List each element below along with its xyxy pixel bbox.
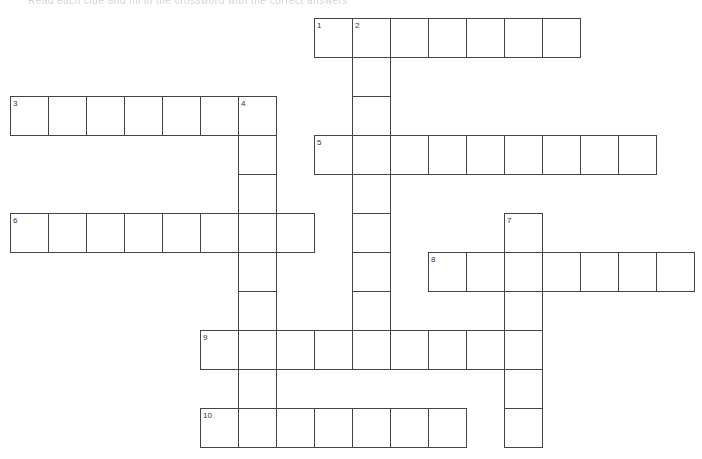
crossword-cell[interactable]: [428, 135, 467, 175]
crossword-cell[interactable]: [428, 408, 467, 448]
crossword-cell[interactable]: [86, 96, 125, 136]
crossword-cell[interactable]: [276, 408, 315, 448]
clue-number: 8: [431, 255, 435, 264]
crossword-cell[interactable]: 1: [314, 18, 353, 58]
crossword-cell[interactable]: [504, 330, 543, 370]
crossword-cell[interactable]: [390, 330, 429, 370]
crossword-cell[interactable]: [580, 252, 619, 292]
crossword-cell[interactable]: [124, 213, 163, 253]
crossword-cell[interactable]: [352, 213, 391, 253]
crossword-cell[interactable]: 4: [238, 96, 277, 136]
crossword-cell[interactable]: [238, 330, 277, 370]
crossword-cell[interactable]: [580, 135, 619, 175]
crossword-cell[interactable]: [352, 291, 391, 331]
crossword-cell[interactable]: [466, 252, 505, 292]
clue-number: 1: [317, 21, 321, 30]
crossword-cell[interactable]: [200, 96, 239, 136]
crossword-cell[interactable]: [276, 213, 315, 253]
clue-number: 7: [507, 216, 511, 225]
crossword-cell[interactable]: [276, 330, 315, 370]
crossword-cell[interactable]: [504, 291, 543, 331]
clue-number: 4: [241, 99, 245, 108]
crossword-cell[interactable]: [238, 408, 277, 448]
crossword-cell[interactable]: [428, 330, 467, 370]
crossword-cell[interactable]: [618, 135, 657, 175]
crossword-cell[interactable]: [162, 213, 201, 253]
crossword-cell[interactable]: [542, 18, 581, 58]
crossword-cell[interactable]: 5: [314, 135, 353, 175]
clue-number: 2: [355, 21, 359, 30]
crossword-cell[interactable]: 6: [10, 213, 49, 253]
crossword-cell[interactable]: [504, 369, 543, 409]
crossword-cell[interactable]: [466, 18, 505, 58]
crossword-cell[interactable]: [466, 330, 505, 370]
crossword-cell[interactable]: [238, 252, 277, 292]
crossword-cell[interactable]: [124, 96, 163, 136]
crossword-cell[interactable]: [48, 213, 87, 253]
crossword-cell[interactable]: [238, 135, 277, 175]
crossword-cell[interactable]: [656, 252, 695, 292]
crossword-cell[interactable]: [200, 213, 239, 253]
crossword-cell[interactable]: [504, 18, 543, 58]
clue-number: 9: [203, 333, 207, 342]
crossword-cell[interactable]: 3: [10, 96, 49, 136]
crossword-cell[interactable]: [238, 174, 277, 214]
crossword-cell[interactable]: [352, 174, 391, 214]
crossword-cell[interactable]: [504, 135, 543, 175]
crossword-cell[interactable]: [238, 213, 277, 253]
crossword-cell[interactable]: 8: [428, 252, 467, 292]
crossword-cell[interactable]: [162, 96, 201, 136]
crossword-cell[interactable]: 10: [200, 408, 239, 448]
crossword-cell[interactable]: [618, 252, 657, 292]
clue-number: 5: [317, 138, 321, 147]
clue-number: 6: [13, 216, 17, 225]
crossword-cell[interactable]: 7: [504, 213, 543, 253]
crossword-cell[interactable]: [238, 369, 277, 409]
crossword-cell[interactable]: [314, 408, 353, 448]
crossword-cell[interactable]: [504, 252, 543, 292]
crossword-cell[interactable]: [238, 291, 277, 331]
crossword-cell[interactable]: [466, 135, 505, 175]
crossword-cell[interactable]: [390, 408, 429, 448]
crossword-cell[interactable]: [428, 18, 467, 58]
crossword-cell[interactable]: [504, 408, 543, 448]
crossword-cell[interactable]: [352, 96, 391, 136]
crossword-cell[interactable]: [390, 18, 429, 58]
crossword-cell[interactable]: [352, 57, 391, 97]
crossword-grid: 12345678910: [0, 0, 702, 459]
crossword-cell[interactable]: [542, 252, 581, 292]
crossword-cell[interactable]: [86, 213, 125, 253]
clue-number: 10: [203, 411, 212, 420]
clue-number: 3: [13, 99, 17, 108]
crossword-cell[interactable]: [352, 252, 391, 292]
crossword-cell[interactable]: [390, 135, 429, 175]
crossword-cell[interactable]: [352, 330, 391, 370]
crossword-cell[interactable]: 2: [352, 18, 391, 58]
crossword-cell[interactable]: [314, 330, 353, 370]
crossword-cell[interactable]: [352, 408, 391, 448]
crossword-cell[interactable]: [352, 135, 391, 175]
crossword-cell[interactable]: [48, 96, 87, 136]
crossword-cell[interactable]: 9: [200, 330, 239, 370]
crossword-cell[interactable]: [542, 135, 581, 175]
